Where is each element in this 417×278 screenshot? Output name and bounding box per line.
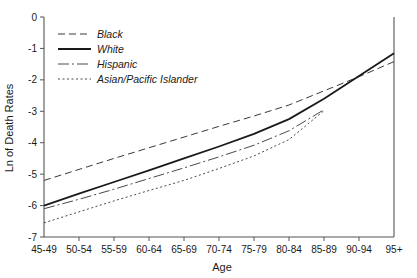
x-tick-label: 90-94 <box>346 244 372 255</box>
x-axis-tick-labels: 45-4950-5455-5960-6465-6970-7475-7980-84… <box>31 244 402 255</box>
x-tick-label: 75-79 <box>241 244 267 255</box>
y-axis-tick-labels: 0-1-2-3-4-5-6-7 <box>28 12 37 243</box>
y-axis-ticks <box>40 17 44 237</box>
y-tick-label: -3 <box>28 106 37 117</box>
x-tick-label: 50-54 <box>66 244 92 255</box>
y-tick-label: -5 <box>28 169 37 180</box>
x-tick-label: 55-59 <box>101 244 127 255</box>
x-tick-label: 95+ <box>386 244 403 255</box>
y-tick-label: -2 <box>28 74 37 85</box>
x-tick-label: 80-84 <box>276 244 302 255</box>
legend-label: White <box>97 43 124 55</box>
x-tick-label: 65-69 <box>171 244 197 255</box>
x-tick-label: 60-64 <box>136 244 162 255</box>
legend-label: Black <box>97 28 123 40</box>
chart-figure: 0-1-2-3-4-5-6-7 45-4950-5455-5960-6465-6… <box>0 0 417 278</box>
legend-label: Hispanic <box>97 58 138 70</box>
x-tick-label: 45-49 <box>31 244 57 255</box>
y-tick-label: -6 <box>28 200 37 211</box>
legend-label: Asian/Pacific Islander <box>96 73 198 85</box>
x-axis-ticks <box>79 237 359 241</box>
x-tick-label: 70-74 <box>206 244 232 255</box>
x-axis-title: Age <box>212 261 232 273</box>
y-tick-label: -4 <box>28 137 37 148</box>
y-axis-title: Ln of Death Rates <box>3 83 15 172</box>
y-tick-label: -7 <box>28 232 37 243</box>
y-tick-label: 0 <box>31 12 37 23</box>
line-chart: 0-1-2-3-4-5-6-7 45-4950-5455-5960-6465-6… <box>0 0 417 278</box>
y-tick-label: -1 <box>28 43 37 54</box>
chart-legend: BlackWhiteHispanicAsian/Pacific Islander <box>58 28 198 85</box>
x-tick-label: 85-89 <box>311 244 337 255</box>
